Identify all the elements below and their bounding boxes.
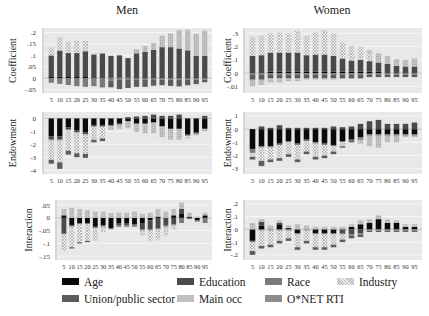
bar-segment: [367, 74, 373, 77]
bar-segment: [116, 213, 121, 218]
bar-segment: [108, 80, 113, 87]
bar-segment: [259, 80, 265, 85]
bar-segment: [108, 78, 113, 80]
bar-segment: [340, 129, 346, 141]
bar-segment: [142, 116, 147, 119]
bar-segment: [358, 73, 364, 74]
x-tick-label: 10: [258, 263, 264, 270]
bar-segment: [259, 55, 265, 73]
bar-segment: [168, 118, 173, 128]
bar-segment: [322, 145, 328, 156]
x-tick-label: 60: [348, 263, 354, 270]
x-tick-label: 75: [171, 263, 177, 270]
x-tick-label: 80: [384, 96, 390, 103]
bar-segment: [277, 231, 283, 241]
bar-segment: [385, 64, 391, 73]
bar-segment: [295, 145, 301, 160]
union-swatch-icon: [62, 295, 79, 302]
bar-segment: [108, 126, 113, 127]
bar-segment: [331, 33, 337, 56]
bar-segment: [134, 118, 139, 123]
bar-segment: [148, 231, 153, 241]
x-tick-label: 60: [348, 177, 354, 184]
bar-segment: [85, 224, 90, 241]
bar-segment: [295, 53, 301, 72]
bar-segment: [134, 77, 139, 78]
panel-women-endowment: 10-1-2-3Endowment51015202530354045505560…: [222, 112, 422, 184]
bar-segment: [295, 234, 301, 247]
bar-segment: [304, 128, 310, 129]
bar-segment: [394, 124, 400, 129]
bar-segment: [268, 226, 274, 230]
bar-segment: [74, 53, 79, 77]
bar-segment: [116, 218, 121, 223]
bar-segment: [83, 78, 88, 87]
bar-segment: [322, 156, 328, 159]
bar-segment: [109, 213, 114, 218]
bar-segment: [117, 55, 122, 77]
bar-segment: [295, 159, 301, 162]
bar-segment: [179, 209, 184, 214]
bar-segment: [313, 144, 319, 157]
bar-segment: [331, 129, 337, 145]
bar-segment: [125, 117, 130, 118]
bar-segment: [412, 59, 418, 67]
bar-segment: [159, 127, 164, 137]
bar-segment: [295, 73, 301, 74]
x-tick-label: 90: [194, 263, 200, 270]
bar-segment: [148, 220, 153, 229]
bar-segment: [66, 151, 71, 155]
bar-segment: [313, 73, 319, 74]
x-tick-label: 65: [357, 263, 363, 270]
bar-segment: [322, 227, 328, 230]
bar-segment: [117, 78, 122, 80]
bar-segment: [250, 74, 256, 79]
bar-segment: [203, 218, 208, 223]
bar-segment: [268, 78, 274, 82]
bar-segment: [185, 118, 190, 134]
bar-segment: [259, 129, 265, 146]
y-tick-label: 0: [235, 226, 239, 234]
bar-segment: [340, 141, 346, 142]
panel-men-endowment: 0-1-2-3-4Endowment5101520253035404550556…: [7, 112, 212, 184]
bar-segment: [304, 231, 310, 241]
bar-segment: [295, 129, 301, 144]
legend-label-age: Age: [84, 276, 103, 288]
bar-segment: [57, 139, 62, 140]
bar-segment: [194, 133, 199, 134]
bar-segment: [385, 223, 391, 229]
x-tick-label: 15: [65, 96, 71, 103]
y-tick-label: .1: [233, 56, 239, 64]
bar-segment: [277, 53, 283, 72]
x-tick-label: 45: [321, 177, 327, 184]
x-tick-label: 60: [142, 96, 148, 103]
bar-segment: [331, 234, 337, 244]
bar-segment: [295, 229, 301, 233]
bar-segment: [185, 134, 190, 135]
x-tick-label: 80: [178, 263, 184, 270]
bar-segment: [185, 78, 190, 79]
bar-segment: [394, 66, 400, 73]
bar-segment: [403, 134, 409, 135]
x-tick-label: 50: [125, 96, 131, 103]
x-tick-label: 45: [321, 263, 327, 270]
x-tick-label: 15: [267, 96, 273, 103]
bar-segment: [156, 209, 161, 217]
bar-segment: [57, 37, 62, 51]
bar-segment: [394, 74, 400, 77]
bar-segment: [77, 242, 82, 243]
bar-segment: [286, 154, 292, 157]
bar-segment: [93, 227, 98, 228]
bar-segment: [179, 218, 184, 223]
bar-segment: [74, 153, 79, 157]
bar-segment: [85, 241, 90, 242]
x-tick-label: 65: [155, 263, 161, 270]
bar-segment: [132, 224, 137, 225]
bar-segment: [295, 31, 301, 53]
bar-segment: [286, 229, 292, 230]
bar-segment: [385, 134, 391, 135]
bar-segment: [116, 223, 121, 226]
bar-segment: [250, 251, 256, 255]
bar-segment: [376, 53, 382, 62]
bar-segment: [412, 123, 418, 130]
